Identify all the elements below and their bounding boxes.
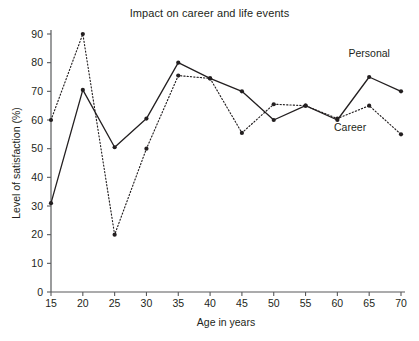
data-point-career	[144, 147, 148, 151]
x-tick-label: 70	[395, 297, 407, 309]
data-point-career	[208, 76, 212, 80]
y-tick-label: 90	[31, 28, 43, 40]
x-axis: 152025303540455055606570	[45, 292, 407, 309]
y-tick-label: 80	[31, 56, 43, 68]
x-tick-label: 20	[77, 297, 89, 309]
data-point-career	[272, 102, 276, 106]
x-tick-label: 35	[172, 297, 184, 309]
x-tick-label: 45	[236, 297, 248, 309]
data-point-career	[176, 73, 180, 77]
y-tick-label: 10	[31, 257, 43, 269]
y-tick-label: 60	[31, 114, 43, 126]
y-axis: 0102030405060708090	[31, 28, 51, 298]
data-point-career	[367, 104, 371, 108]
data-point-career	[49, 118, 53, 122]
plot-area: 0102030405060708090 15202530354045505560…	[0, 0, 419, 341]
data-point-career	[335, 116, 339, 120]
data-point-personal	[113, 145, 117, 149]
series-group	[49, 32, 403, 237]
x-tick-label: 65	[363, 297, 375, 309]
x-axis-label: Age in years	[51, 316, 401, 328]
x-tick-group: 152025303540455055606570	[45, 292, 407, 309]
data-point-personal	[81, 88, 85, 92]
x-tick-label: 50	[268, 297, 280, 309]
data-point-career	[81, 32, 85, 36]
data-point-career	[303, 104, 307, 108]
data-point-personal	[399, 89, 403, 93]
x-tick-label: 40	[204, 297, 216, 309]
x-tick-label: 15	[45, 297, 57, 309]
data-point-personal	[144, 116, 148, 120]
y-tick-label: 0	[37, 286, 43, 298]
x-tick-label: 60	[332, 297, 344, 309]
data-point-career	[113, 233, 117, 237]
series-annotation-personal: Personal	[348, 47, 389, 59]
x-tick-label: 25	[109, 297, 121, 309]
data-point-personal	[49, 201, 53, 205]
series-line-career	[51, 34, 401, 235]
data-point-personal	[367, 75, 371, 79]
y-tick-label: 50	[31, 142, 43, 154]
series-annotation-career: Career	[334, 121, 367, 133]
data-point-personal	[240, 89, 244, 93]
y-tick-group: 0102030405060708090	[31, 28, 51, 298]
data-point-personal	[176, 61, 180, 65]
data-point-career	[399, 132, 403, 136]
data-point-personal	[272, 118, 276, 122]
y-tick-label: 70	[31, 85, 43, 97]
annotation-group: PersonalCareer	[334, 47, 390, 134]
x-tick-label: 30	[141, 297, 153, 309]
data-point-career	[240, 131, 244, 135]
x-tick-label: 55	[300, 297, 312, 309]
y-tick-label: 30	[31, 200, 43, 212]
y-tick-label: 40	[31, 171, 43, 183]
chart-container: Impact on career and life events Level o…	[0, 0, 419, 341]
y-tick-label: 20	[31, 228, 43, 240]
